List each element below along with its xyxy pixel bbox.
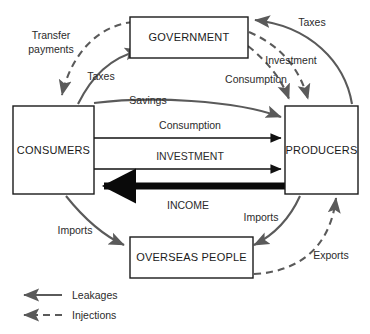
flow-label-exports: Exports	[313, 249, 349, 261]
flow-label-investment-main: INVESTMENT	[156, 150, 224, 162]
flow-label-investment-government: Investment	[265, 54, 316, 66]
circular-flow-diagram: GOVERNMENT CONSUMERS PRODUCERS OVERSEAS …	[0, 0, 370, 334]
diagram-canvas: GOVERNMENT CONSUMERS PRODUCERS OVERSEAS …	[0, 0, 370, 334]
flow-label-imports-consumers: Imports	[57, 224, 92, 236]
node-label-consumers: CONSUMERS	[17, 144, 90, 156]
flow-arrow-imports-consumers	[66, 196, 124, 245]
flow-arrow-savings	[94, 100, 281, 117]
legend: Leakages Injections	[24, 289, 118, 321]
flow-label-consumption-main: Consumption	[159, 119, 221, 131]
flow-label-taxes-producers: Taxes	[298, 16, 325, 28]
flow-arrow-transfer-payments	[62, 22, 133, 95]
flow-label-savings: Savings	[129, 94, 166, 106]
flow-label-transfer-payments-line2: payments	[28, 43, 74, 55]
flow-label-consumption-government: Consumption	[225, 73, 287, 85]
node-label-government: GOVERNMENT	[149, 31, 230, 43]
flow-label-transfer-payments-line1: Transfer	[32, 29, 71, 41]
node-label-producers: PRODUCERS	[285, 144, 357, 156]
node-label-overseas: OVERSEAS PEOPLE	[136, 251, 247, 263]
flow-arrow-exports	[254, 198, 336, 274]
legend-label-injections: Injections	[72, 309, 116, 321]
flow-label-taxes-consumers: Taxes	[87, 70, 114, 82]
flow-label-imports-producers: Imports	[243, 211, 278, 223]
legend-label-leakages: Leakages	[72, 289, 118, 301]
flow-label-income-main: INCOME	[167, 199, 209, 211]
